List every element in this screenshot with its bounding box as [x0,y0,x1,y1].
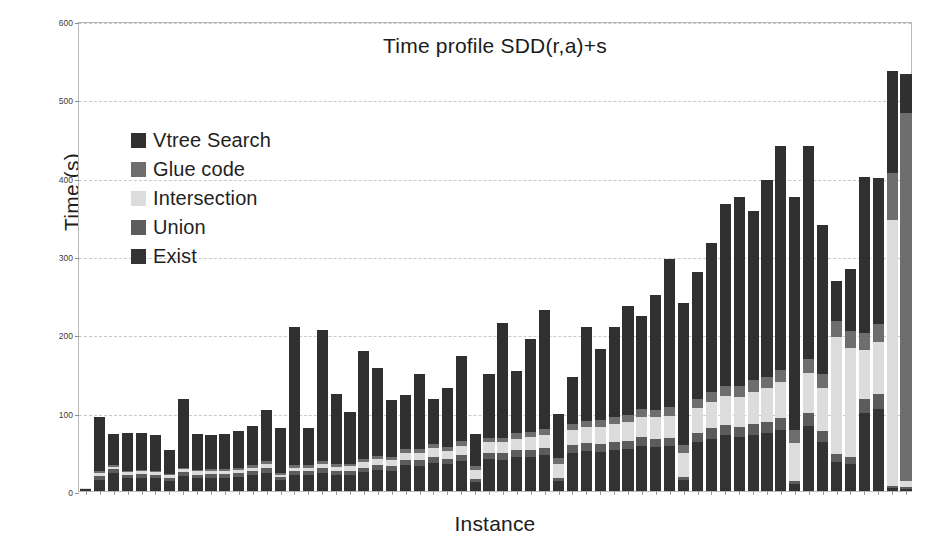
bar-segment [108,473,119,491]
bar-segment [706,439,717,491]
bar-segment [275,428,286,473]
bar-stack [261,410,272,491]
bar-segment [609,442,620,450]
x-axis-tick-mark [489,491,490,495]
bar-segment [720,425,731,435]
bar-segment [873,394,884,409]
bar-stack [372,368,383,491]
x-axis-tick-mark [322,491,323,495]
bar-segment [761,433,772,491]
bar-segment [859,413,870,491]
bar-segment [831,321,842,337]
x-axis-tick-mark [128,491,129,495]
x-axis-tick-mark [767,491,768,495]
legend-item-label: Union [153,216,206,239]
bar-segment [372,368,383,456]
bar-segment [94,480,105,491]
bar-stack [775,146,786,491]
x-axis-tick-mark [864,491,865,495]
bar-segment [581,443,592,451]
bar-segment [734,197,745,387]
bar-stack [331,394,342,491]
bar-segment [650,447,661,491]
bar-stack [900,74,911,491]
bar-segment [442,464,453,491]
bar-segment [761,180,772,377]
bar-stack [706,243,717,491]
bar-segment [831,281,842,321]
bar-stack [400,395,411,491]
x-axis-tick-mark [642,491,643,495]
bar-segment [803,146,814,358]
bar-segment [622,422,633,441]
bar-stack [94,417,105,491]
bar-stack [386,400,397,491]
bar-stack [122,433,133,491]
x-axis-tick-mark [850,491,851,495]
x-axis-tick-mark [350,491,351,495]
bar-stack [734,197,745,492]
bar-segment [789,197,800,430]
bar-segment [275,480,286,491]
bar-stack [303,428,314,491]
x-axis-tick-mark [225,491,226,495]
bar-segment [581,327,592,421]
bar-segment [261,410,272,461]
legend-swatch-icon [131,249,146,264]
bar-stack [831,281,842,491]
bar-segment [414,453,425,461]
legend-swatch-icon [131,191,146,206]
legend-swatch-icon [131,162,146,177]
bar-stack [497,323,508,491]
bar-segment [331,394,342,465]
bar-segment [803,373,814,414]
x-axis-tick-mark [586,491,587,495]
chart-title: Time profile SDD(r,a)+s [78,34,912,58]
bar-stack [344,412,355,491]
bar-segment [164,481,175,491]
bar-stack [456,356,467,491]
bar-segment [622,306,633,415]
bar-segment [775,418,786,430]
bar-stack [845,269,856,491]
bar-segment [748,392,759,424]
bar-segment [845,348,856,458]
bar-segment [748,424,759,435]
bar-segment [622,449,633,491]
bar-segment [706,402,717,429]
bar-segment [261,473,272,491]
bar-segment [178,399,189,467]
bar-segment [636,437,647,446]
x-axis-tick-mark [698,491,699,495]
bar-segment [900,74,911,113]
bar-segment [80,489,91,491]
x-axis-tick-mark [447,491,448,495]
bar-segment [859,177,870,333]
legend-item-exist: Exist [131,242,361,271]
x-axis-tick-mark [475,491,476,495]
legend-item-label: Glue code [153,158,245,181]
bar-segment [692,442,703,491]
bar-segment [609,450,620,491]
bar-segment [233,431,244,469]
x-axis-tick-mark [628,491,629,495]
bar-stack [358,351,369,491]
bar-segment [817,442,828,491]
bar-segment [900,113,911,481]
x-axis-tick-mark [545,491,546,495]
bar-segment [789,430,800,443]
legend-item-label: Intersection [153,187,258,210]
bar-segment [303,428,314,466]
bar-segment [650,410,661,418]
bar-segment [775,370,786,383]
bar-stack [442,388,453,491]
bar-segment [483,459,494,491]
bar-segment [859,333,870,350]
bar-segment [192,478,203,491]
x-axis-tick-mark [308,491,309,495]
bar-segment [456,446,467,455]
bar-segment [358,472,369,491]
bar-segment [539,448,550,455]
bar-segment [734,397,745,427]
bar-segment [164,450,175,474]
